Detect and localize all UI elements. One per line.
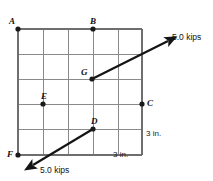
vertical-dimension-label: 3 in. (146, 130, 161, 138)
point-label-A: A (9, 17, 15, 26)
node-dot-D (90, 126, 95, 131)
upper-force-arrow (92, 41, 168, 79)
horizontal-dimension-label: 3 in. (113, 151, 128, 159)
grid-horizontal-lines (18, 54, 142, 129)
node-dot-E (40, 101, 45, 106)
point-label-D: D (91, 117, 98, 126)
point-label-E: E (41, 92, 47, 101)
point-label-G: G (81, 68, 88, 77)
point-label-B: B (90, 17, 96, 26)
point-label-C: C (147, 99, 153, 108)
lower-force-label: 5.0 kips (40, 166, 69, 175)
node-dot-G (89, 76, 94, 81)
node-dot-A (15, 26, 20, 31)
node-dot-F (15, 152, 20, 157)
node-dot-B (90, 26, 95, 31)
point-label-F: F (7, 150, 13, 159)
lower-force-arrow (33, 129, 93, 165)
force-couple-figure: A B G E C D F 5.0 kips 5.0 kips 3 in. 3 … (0, 0, 213, 181)
upper-force-label: 5.0 kips (172, 33, 201, 42)
figure-canvas (0, 0, 213, 181)
node-dot-C (139, 101, 144, 106)
